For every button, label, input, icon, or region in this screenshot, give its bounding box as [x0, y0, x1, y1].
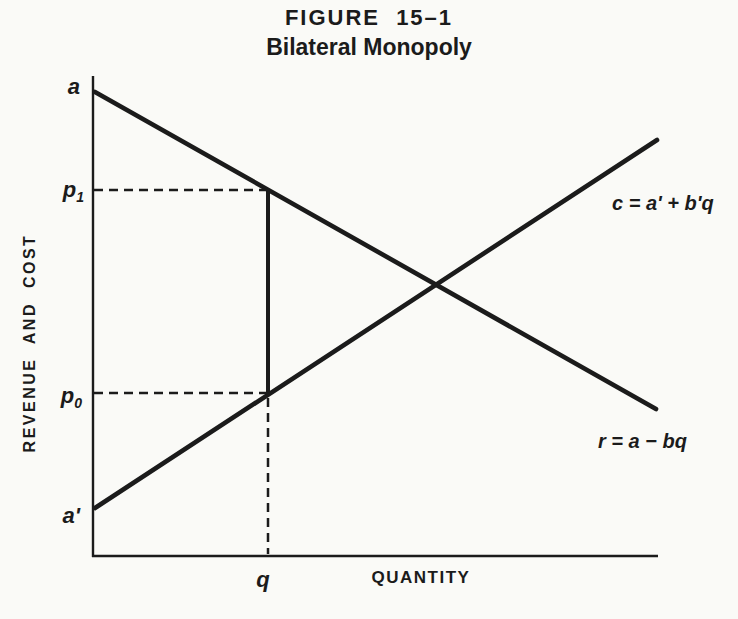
figure-page: FIGURE 15–1 Bilateral Monopoly REVENUE A…	[0, 0, 738, 619]
label-a-prime: a'	[63, 503, 81, 528]
label-a: a	[68, 74, 80, 99]
label-q: q	[256, 567, 270, 592]
label-p1: p1	[62, 177, 84, 205]
cost-line	[95, 140, 657, 508]
revenue-line	[95, 92, 656, 409]
label-p0: p0	[60, 383, 82, 411]
label-cost-equation: c = a' + b'q	[612, 192, 714, 214]
figure-canvas: ap1p0a'qc = a' + b'qr = a − bq	[0, 0, 738, 619]
label-revenue-equation: r = a − bq	[598, 430, 687, 452]
